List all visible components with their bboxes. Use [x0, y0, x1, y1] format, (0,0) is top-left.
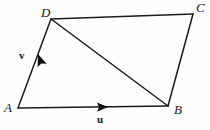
edge-db-diagonal: [51, 19, 168, 106]
edge-ab: [18, 106, 168, 108]
edge-dc: [51, 14, 193, 19]
vertex-label-a: A: [4, 101, 12, 114]
vertex-label-b: B: [174, 103, 182, 116]
vector-label-v: v: [19, 50, 25, 61]
vertex-label-c: C: [196, 1, 205, 14]
geometry-figure: A B C D u v: [0, 0, 210, 130]
vertex-label-d: D: [41, 6, 50, 19]
vector-label-u: u: [97, 114, 103, 125]
edge-cb: [168, 14, 193, 106]
